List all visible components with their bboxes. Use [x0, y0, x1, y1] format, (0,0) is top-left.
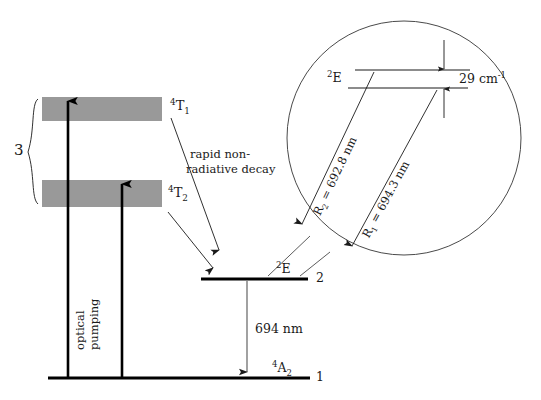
level-2-number: 2	[316, 271, 324, 285]
inset-transition-arrow-R2	[302, 72, 374, 224]
inset-splitting-unit: cm	[479, 71, 498, 86]
nonradiative-decay-label-line2: radiative decay	[186, 163, 275, 176]
inset-splitting-label: 29 cm-1	[459, 71, 506, 87]
inset-R2-equals: =	[318, 187, 335, 202]
optical-pumping-label-line2: pumping	[88, 299, 101, 350]
level-1-number: 1	[316, 370, 324, 384]
inset-doublet-main: E	[332, 70, 341, 85]
inset-splitting-exponent: -1	[498, 70, 506, 80]
band-4T2-subscript: 2	[182, 193, 188, 203]
inset-leader-line-upper	[300, 252, 330, 276]
inset-magnifier-circle	[287, 21, 521, 255]
nonradiative-decay-label-line1: rapid non-	[190, 148, 250, 161]
level-2-label-2E: 2E	[276, 261, 291, 277]
band-4T1-subscript: 1	[184, 106, 190, 116]
level-2-main: E	[281, 261, 290, 276]
level-1-subscript: 2	[286, 368, 291, 378]
inset-R1-equals: =	[367, 210, 384, 225]
nonradiative-decay-arrow-from-4T2	[168, 212, 213, 268]
band-4T2-rect	[42, 180, 162, 207]
band-4T2-main: T	[174, 185, 183, 200]
optical-pumping-label-line1: optical	[74, 310, 87, 350]
inset-splitting-value: 29	[459, 71, 475, 86]
band-4T2-label: 4T2	[168, 184, 188, 203]
brace-level-3	[28, 99, 38, 204]
inset-doublet-label-2E: 2E	[327, 70, 342, 86]
level-1-label-4A2: 4A2	[272, 360, 292, 378]
brace-label-3: 3	[14, 142, 24, 159]
laser-transition-label-694nm: 694 nm	[255, 322, 303, 336]
band-4T1-label: 4T1	[170, 97, 190, 116]
band-4T1-main: T	[176, 98, 185, 113]
energy-level-diagram-figure: 3 4T1 4T2 optical pumping rapid non- rad…	[0, 0, 541, 400]
band-4T1-rect	[42, 97, 162, 121]
